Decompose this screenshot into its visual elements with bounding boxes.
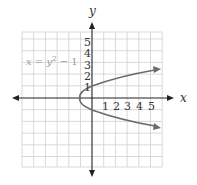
x-tick-3: 3 bbox=[124, 101, 131, 112]
plot-canvas bbox=[0, 0, 197, 185]
axes bbox=[16, 26, 170, 173]
y-tick-4: 4 bbox=[84, 48, 91, 59]
equation-label: x = y2 − 1 bbox=[26, 55, 78, 67]
x-tick-4: 4 bbox=[136, 101, 143, 112]
y-axis-label: y bbox=[89, 5, 96, 17]
x-tick-1: 1 bbox=[102, 101, 109, 112]
x-axis-label: x bbox=[180, 92, 187, 104]
x-tick-5: 5 bbox=[148, 101, 155, 112]
y-tick-1: 1 bbox=[84, 82, 91, 93]
x-tick-2: 2 bbox=[113, 101, 120, 112]
